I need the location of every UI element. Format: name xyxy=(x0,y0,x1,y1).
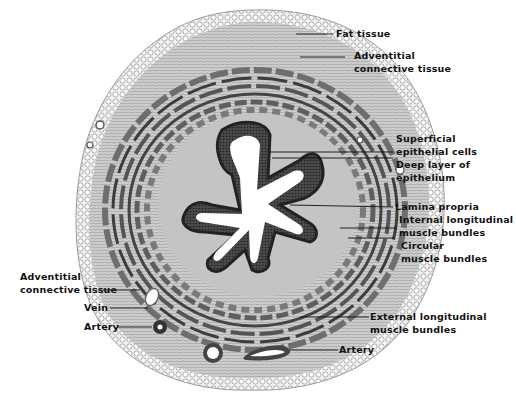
label-internal-2: muscle bundles xyxy=(399,227,485,239)
label-artery-left: Artery xyxy=(84,321,119,333)
label-circular-1: Circular xyxy=(401,240,444,252)
label-superficial-1: Superficial xyxy=(396,133,456,145)
label-adventitial-left-1: Adventitial xyxy=(20,271,81,283)
label-vein: Vein xyxy=(84,302,108,314)
label-external-2: muscle bundles xyxy=(370,324,456,336)
label-adventitial-right-1: Adventitial xyxy=(354,50,415,62)
label-artery-bottom: Artery xyxy=(339,344,374,356)
ureter-cross-section-figure: Fat tissue Adventitial connective tissue… xyxy=(0,0,516,401)
label-external-1: External longitudinal xyxy=(370,311,487,323)
label-lamina-propria: Lamina propria xyxy=(395,201,479,213)
label-internal-1: Internal longitudinal xyxy=(399,214,513,226)
label-deep-2: epithelium xyxy=(396,172,455,184)
label-fat-tissue: Fat tissue xyxy=(336,28,391,40)
label-superficial-2: epithelial cells xyxy=(396,146,477,158)
label-adventitial-right-2: connective tissue xyxy=(354,63,451,75)
label-deep-1: Deep layer of xyxy=(396,159,470,171)
label-adventitial-left-2: connective tissue xyxy=(20,284,117,296)
label-circular-2: muscle bundles xyxy=(401,253,487,265)
